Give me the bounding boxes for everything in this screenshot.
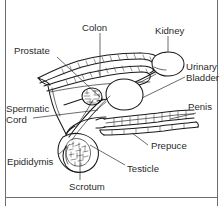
label-penis: Penis — [188, 101, 212, 112]
structure-testicle — [66, 138, 91, 166]
diagram-frame: Colon Kidney Prostate Urinary Bladder Sp… — [0, 0, 223, 206]
label-scrotum: Scrotum — [69, 181, 105, 192]
label-urinary-bladder-line2: Bladder — [186, 72, 220, 83]
label-prostate: Prostate — [14, 45, 50, 56]
structure-prepuce — [100, 122, 198, 135]
label-urinary-bladder-line1: Urinary — [186, 61, 217, 72]
structure-penis — [96, 110, 194, 128]
label-kidney: Kidney — [155, 25, 185, 36]
label-spermatic-cord-line1: Spermatic — [6, 103, 49, 114]
leader-testicle — [90, 145, 125, 165]
leader-epididymis — [58, 144, 70, 155]
structure-prostate — [64, 88, 102, 105]
leader-prepuce — [132, 133, 148, 145]
leader-prostate — [57, 57, 100, 97]
label-epididymis: Epididymis — [7, 156, 54, 167]
label-testicle: Testicle — [127, 163, 159, 174]
anatomy-illustration: Colon Kidney Prostate Urinary Bladder Sp… — [0, 0, 223, 206]
structure-urinary-bladder — [97, 79, 143, 110]
label-prepuce: Prepuce — [151, 140, 187, 151]
label-spermatic-cord-line2: Cord — [6, 114, 27, 125]
label-colon: Colon — [82, 22, 107, 33]
